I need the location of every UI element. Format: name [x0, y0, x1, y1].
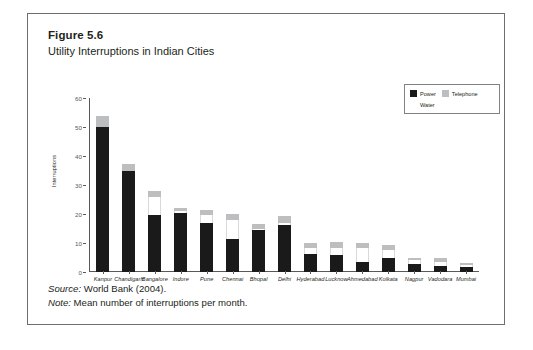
- x-tick-mark: [388, 271, 389, 274]
- bar-stack: [226, 214, 239, 272]
- bar-segment-power: [226, 239, 239, 272]
- figure-header: Figure 5.6 Utility Interruptions in Indi…: [48, 28, 214, 59]
- bar-segment-telephone: [96, 116, 109, 127]
- bar-series-container: [90, 98, 479, 272]
- figure-footer: Source: World Bank (2004). Note: Mean nu…: [48, 282, 478, 310]
- x-tick-mark: [285, 271, 286, 274]
- x-tick-mark: [155, 271, 156, 274]
- bar-stack: [382, 245, 395, 272]
- bar-stack: [278, 216, 291, 272]
- bar-segment-water: [382, 250, 395, 258]
- bar-stack: [252, 224, 265, 272]
- y-tick-mark: [83, 156, 86, 157]
- figure-source: Source: World Bank (2004).: [48, 282, 478, 296]
- legend-row-1: Power Telephone: [410, 89, 493, 98]
- figure-note-text: Mean number of interruptions per month.: [71, 297, 248, 308]
- bar-segment-water: [330, 248, 343, 256]
- bar-segment-water: [200, 215, 213, 222]
- bar-segment-water: [226, 220, 239, 239]
- bar-group[interactable]: [226, 98, 239, 272]
- bar-segment-power: [122, 171, 135, 273]
- bar-segment-power: [330, 255, 343, 272]
- y-tick-label: 50: [75, 124, 82, 131]
- bar-segment-water: [148, 197, 161, 215]
- bar-stack: [122, 164, 135, 272]
- bar-group[interactable]: [148, 98, 161, 272]
- bar-group[interactable]: [304, 98, 317, 272]
- bar-segment-telephone: [278, 216, 291, 223]
- legend-entry-telephone: Telephone: [442, 90, 478, 97]
- bar-group[interactable]: [278, 98, 291, 272]
- bar-group[interactable]: [382, 98, 395, 272]
- x-tick-mark: [129, 271, 130, 274]
- y-tick-label: 30: [75, 182, 82, 189]
- bar-stack: [304, 243, 317, 272]
- y-axis-tick-labels: 0102030405060: [64, 98, 86, 272]
- bar-segment-power: [304, 254, 317, 272]
- x-tick-mark: [336, 271, 337, 274]
- x-tick-mark: [207, 271, 208, 274]
- x-tick-mark: [466, 271, 467, 274]
- bar-group[interactable]: [96, 98, 109, 272]
- y-tick-mark: [83, 214, 86, 215]
- figure-title: Utility Interruptions in Indian Cities: [48, 44, 214, 59]
- x-tick-mark: [233, 271, 234, 274]
- bar-segment-water: [356, 248, 369, 262]
- legend-swatch-power-icon: [410, 90, 417, 97]
- figure-panel: Figure 5.6 Utility Interruptions in Indi…: [27, 13, 505, 325]
- y-tick-label: 60: [75, 95, 82, 102]
- legend-label-water: Water: [420, 102, 435, 108]
- bar-segment-power: [96, 127, 109, 272]
- legend-swatch-telephone-icon: [442, 90, 449, 97]
- bar-group[interactable]: [408, 98, 421, 272]
- bar-group[interactable]: [356, 98, 369, 272]
- bar-segment-power: [200, 223, 213, 272]
- bar-stack: [200, 210, 213, 272]
- bar-stack: [408, 258, 421, 272]
- bar-stack: [148, 191, 161, 272]
- figure-source-label: Source:: [48, 283, 81, 294]
- x-tick-mark: [259, 271, 260, 274]
- y-tick-label: 0: [79, 269, 82, 276]
- bar-group[interactable]: [200, 98, 213, 272]
- bar-segment-power: [148, 215, 161, 272]
- bar-group[interactable]: [460, 98, 473, 272]
- legend-label-power: Power: [420, 91, 436, 97]
- bar-group[interactable]: [434, 98, 447, 272]
- legend-entry-power: Power: [410, 90, 436, 97]
- y-tick-label: 40: [75, 153, 82, 160]
- x-tick-mark: [181, 271, 182, 274]
- legend-label-telephone: Telephone: [452, 91, 478, 97]
- y-tick-mark: [83, 127, 86, 128]
- bar-segment-power: [382, 258, 395, 273]
- bar-segment-power: [278, 225, 291, 272]
- legend-entry-water: Water: [410, 101, 435, 108]
- bar-segment-telephone: [122, 164, 135, 171]
- bar-stack: [434, 258, 447, 272]
- legend-swatch-water-icon: [410, 101, 417, 108]
- x-tick-mark: [103, 271, 104, 274]
- x-tick-mark: [310, 271, 311, 274]
- x-tick-mark: [414, 271, 415, 274]
- bar-group[interactable]: [252, 98, 265, 272]
- y-tick-label: 20: [75, 211, 82, 218]
- figure-source-text: World Bank (2004).: [81, 283, 166, 294]
- y-tick-label: 10: [75, 240, 82, 247]
- x-tick-mark: [440, 271, 441, 274]
- y-tick-mark: [83, 185, 86, 186]
- figure-number: Figure 5.6: [48, 28, 214, 43]
- bar-stack: [96, 116, 109, 272]
- y-tick-mark: [83, 98, 86, 99]
- y-tick-mark: [83, 243, 86, 244]
- bar-group[interactable]: [174, 98, 187, 272]
- bar-group[interactable]: [122, 98, 135, 272]
- bar-stack: [330, 242, 343, 272]
- y-axis-title: Interruptions: [51, 126, 57, 216]
- bar-stack: [174, 208, 187, 272]
- y-tick-mark: [83, 272, 86, 273]
- bar-group[interactable]: [330, 98, 343, 272]
- bar-stack: [356, 243, 369, 272]
- bar-segment-power: [252, 230, 265, 272]
- chart-plot-area: Interruptions 0102030405060 KanpurChandi…: [48, 72, 486, 272]
- bar-segment-power: [174, 213, 187, 272]
